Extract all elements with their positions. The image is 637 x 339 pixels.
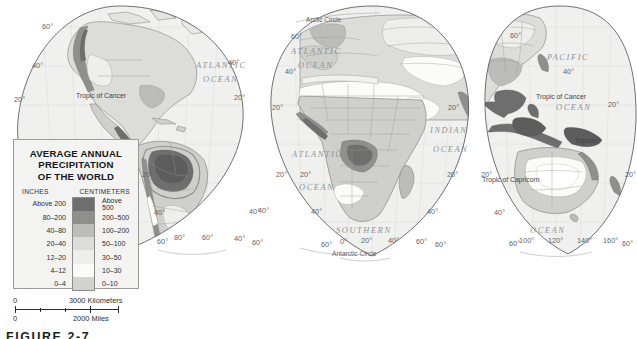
scale-tick xyxy=(40,308,41,312)
legend-header-centimeters: CENTIMETERS xyxy=(79,188,130,195)
legend-centimeters-value: Above 500 xyxy=(95,197,130,211)
legend-inches-value: 40–80 xyxy=(22,227,72,234)
legend-inches-value: 0–4 xyxy=(22,280,72,287)
legend-centimeters-value: 50–100 xyxy=(95,240,130,247)
scale-km-labels: 0 3000 Kilometers xyxy=(13,296,145,306)
legend-centimeters-value: 100–200 xyxy=(95,227,130,234)
scale-km-end: 3000 Kilometers xyxy=(69,296,122,305)
scale-ruler-line xyxy=(15,309,118,310)
legend-row: 12–2030–50 xyxy=(14,250,138,263)
legend-color-swatch xyxy=(72,224,95,237)
legend-color-swatch xyxy=(72,211,95,224)
legend-row: Above 200Above 500 xyxy=(14,197,138,210)
scale-ruler xyxy=(13,306,145,313)
legend-row: 4–1210–30 xyxy=(14,264,138,277)
legend-color-swatch xyxy=(72,277,95,291)
scale-tick xyxy=(118,306,119,313)
scale-tick xyxy=(15,306,16,313)
legend-row: 20–4050–100 xyxy=(14,237,138,250)
scale-mi-labels: 0 2000 Miles xyxy=(13,314,145,324)
legend-color-swatch xyxy=(72,197,95,211)
legend-inches-value: 80–200 xyxy=(22,214,72,221)
legend-rows: Above 200Above 50080–200200–50040–80100–… xyxy=(14,197,138,290)
legend-title-line-2: PRECIPITATION xyxy=(18,159,134,170)
legend-header-inches: INCHES xyxy=(22,188,49,195)
legend-color-swatch xyxy=(72,250,95,263)
legend-inches-value: 20–40 xyxy=(22,240,72,247)
legend-inches-value: 4–12 xyxy=(22,267,72,274)
scale-bar: 0 3000 Kilometers 0 2000 Miles xyxy=(13,296,145,324)
legend-inches-value: Above 200 xyxy=(22,200,72,207)
legend-title-line-3: OF THE WORLD xyxy=(18,171,134,182)
legend-title-line-1: AVERAGE ANNUAL xyxy=(18,148,134,159)
legend-row: 0–40–10 xyxy=(14,277,138,290)
legend-inches-value: 12–20 xyxy=(22,254,72,261)
legend-centimeters-value: 0–10 xyxy=(95,280,130,287)
legend-row: 80–200200–500 xyxy=(14,211,138,224)
legend-color-swatch xyxy=(72,264,95,277)
legend-row: 40–80100–200 xyxy=(14,224,138,237)
figure-container: ATLANTIC OCEAN ATLANTIC OCEAN ATLANTIC O… xyxy=(0,0,637,339)
scale-tick xyxy=(65,308,66,312)
scale-mi-start: 0 xyxy=(13,314,17,323)
figure-caption: FIGURE 2-7 xyxy=(6,330,90,339)
legend-centimeters-value: 30–50 xyxy=(95,254,130,261)
map-legend: AVERAGE ANNUAL PRECIPITATION OF THE WORL… xyxy=(13,139,139,289)
scale-mi-end: 2000 Miles xyxy=(73,314,109,323)
legend-centimeters-value: 10–30 xyxy=(95,267,130,274)
scale-tick xyxy=(90,306,91,313)
scale-km-start: 0 xyxy=(13,296,17,305)
legend-column-headers: INCHES CENTIMETERS xyxy=(14,182,138,197)
legend-title: AVERAGE ANNUAL PRECIPITATION OF THE WORL… xyxy=(14,140,138,182)
legend-centimeters-value: 200–500 xyxy=(95,214,130,221)
legend-color-swatch xyxy=(72,237,95,250)
